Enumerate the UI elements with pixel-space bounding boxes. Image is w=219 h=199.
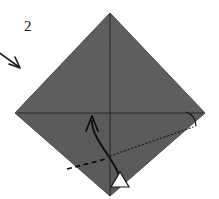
- origami-diagram-canvas: [0, 0, 219, 199]
- step-number-label: 2: [24, 19, 32, 34]
- origami-step-figure: 2: [0, 0, 219, 199]
- incoming-pointer-arrow: [0, 51, 20, 68]
